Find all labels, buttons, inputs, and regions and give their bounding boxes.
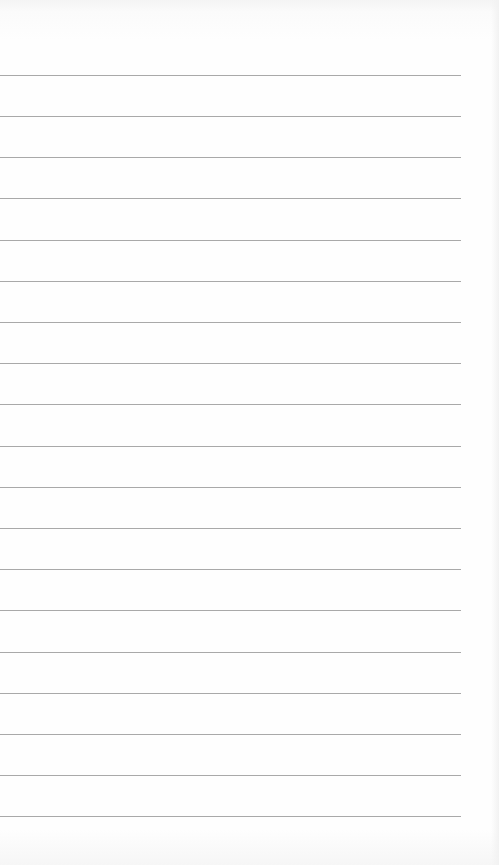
ruled-line — [0, 816, 461, 817]
ruled-line — [0, 322, 461, 323]
ruled-line — [0, 528, 461, 529]
ruled-line — [0, 157, 461, 158]
ruled-line — [0, 75, 461, 76]
ruled-line — [0, 404, 461, 405]
ruled-line — [0, 734, 461, 735]
ruled-line — [0, 446, 461, 447]
ruled-line — [0, 198, 461, 199]
ruled-line — [0, 116, 461, 117]
ruled-line — [0, 610, 461, 611]
ruled-line — [0, 363, 461, 364]
paper-edge-shadow — [491, 0, 499, 865]
lined-paper — [0, 0, 499, 865]
ruled-line — [0, 652, 461, 653]
ruled-line — [0, 569, 461, 570]
ruled-line — [0, 281, 461, 282]
ruled-line — [0, 775, 461, 776]
ruled-line — [0, 693, 461, 694]
ruled-line — [0, 240, 461, 241]
ruled-line — [0, 487, 461, 488]
